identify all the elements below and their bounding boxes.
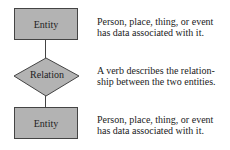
description-line: has data associated with it. [97,27,229,38]
entity-label: Entity [34,19,58,30]
relation-description: A verb describes the relation- ship betw… [97,65,229,87]
entity-description: Person, place, thing, or event has data … [97,114,229,136]
description-line: Person, place, thing, or event [97,114,229,125]
connector-line [45,40,46,58]
entity-description: Person, place, thing, or event has data … [97,16,229,38]
entity-box-bottom: Entity [14,107,78,139]
description-line: A verb describes the relation- [97,65,229,76]
connector-line [45,96,46,107]
entity-box-top: Entity [14,8,78,40]
entity-label: Entity [34,118,58,129]
description-line: ship between the two entities. [97,76,229,87]
description-line: has data associated with it. [97,125,229,136]
description-line: Person, place, thing, or event [97,16,229,27]
relation-label: Relation [14,69,80,80]
